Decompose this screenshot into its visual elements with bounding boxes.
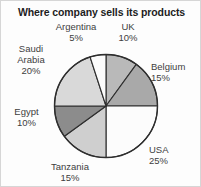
slice-label-tanzania-pct: 15%: [38, 172, 102, 183]
pie-chart-canvas: [53, 53, 159, 159]
slice-label-argentina-name: Argentina: [56, 21, 97, 32]
slice-label-belgium-pct: 15%: [151, 72, 201, 83]
pie-svg: [53, 53, 159, 159]
slice-label-saudi-arabia-pct: 20%: [7, 65, 55, 76]
slice-label-usa-name: USA: [149, 144, 169, 155]
slice-label-belgium-name: Belgium: [151, 61, 185, 72]
slice-label-usa-pct: 25%: [149, 155, 194, 166]
slice-label-usa: USA 25%: [149, 144, 194, 166]
pie-chart-figure: Where company sells its products Argenti…: [0, 0, 201, 187]
slice-label-uk-pct: 10%: [111, 32, 145, 43]
page-title: Where company sells its products: [1, 6, 201, 18]
slice-label-uk: UK 10%: [111, 21, 145, 43]
slice-label-belgium: Belgium 15%: [151, 61, 201, 83]
slice-label-saudi-arabia-name-line2: Arabia: [7, 54, 55, 65]
slice-label-argentina-pct: 5%: [47, 32, 105, 43]
slice-label-uk-name: UK: [121, 21, 134, 32]
slice-label-saudi-arabia-name-line1: Saudi: [19, 43, 43, 54]
slice-label-argentina: Argentina 5%: [47, 21, 105, 43]
slice-label-egypt-name: Egypt: [14, 106, 38, 117]
slice-label-saudi-arabia: Saudi Arabia 20%: [7, 43, 55, 76]
slice-label-tanzania-name: Tanzania: [51, 161, 89, 172]
slice-label-egypt-pct: 10%: [4, 117, 49, 128]
slice-label-egypt: Egypt 10%: [4, 106, 49, 128]
slice-label-tanzania: Tanzania 15%: [38, 161, 102, 183]
